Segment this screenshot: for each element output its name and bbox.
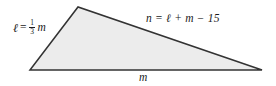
- triangle-shape: [0, 0, 276, 86]
- fraction-one-third: 1 3: [29, 19, 35, 37]
- label-base: m: [139, 72, 147, 84]
- triangle-figure: ℓ = 1 3 m n = ℓ + m − 15 m: [0, 0, 276, 86]
- fraction-denominator: 3: [29, 28, 35, 36]
- label-hypotenuse: n = ℓ + m − 15: [146, 13, 220, 25]
- label-left-side: ℓ = 1 3 m: [13, 19, 46, 37]
- fraction-numerator: 1: [29, 19, 35, 27]
- label-left-side-equals: =: [20, 22, 27, 34]
- label-left-side-variable: ℓ: [13, 22, 18, 34]
- label-left-side-trailing-variable: m: [38, 22, 46, 34]
